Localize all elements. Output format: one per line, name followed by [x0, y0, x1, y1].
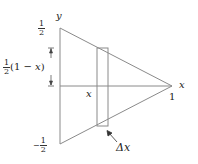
minus-sign: − — [33, 141, 40, 150]
triangle-upper-edge — [60, 28, 172, 86]
triangle-lower-edge — [60, 86, 172, 144]
x-axis-label: x — [179, 80, 185, 90]
expr-text: (1 − — [10, 61, 35, 72]
frac-denominator: 2 — [40, 146, 47, 154]
y-bottom-tick-label: − 1 2 — [33, 137, 47, 154]
y-axis-label: y — [56, 11, 62, 21]
half-height-label: 1 2 (1 − x) — [3, 59, 45, 76]
half-height-bracket — [48, 48, 54, 86]
delta-x-label: Δx — [116, 142, 130, 153]
delta-x-text: Δx — [116, 141, 130, 154]
expr-close: ) — [41, 61, 45, 72]
strip-rectangle — [97, 48, 108, 126]
strip-position-label: x — [86, 89, 92, 99]
x-end-tick-label: 1 — [169, 92, 175, 102]
frac-denominator: 2 — [38, 29, 45, 37]
y-top-tick-label: 1 2 — [38, 20, 45, 37]
triangle-diagram — [0, 0, 198, 164]
